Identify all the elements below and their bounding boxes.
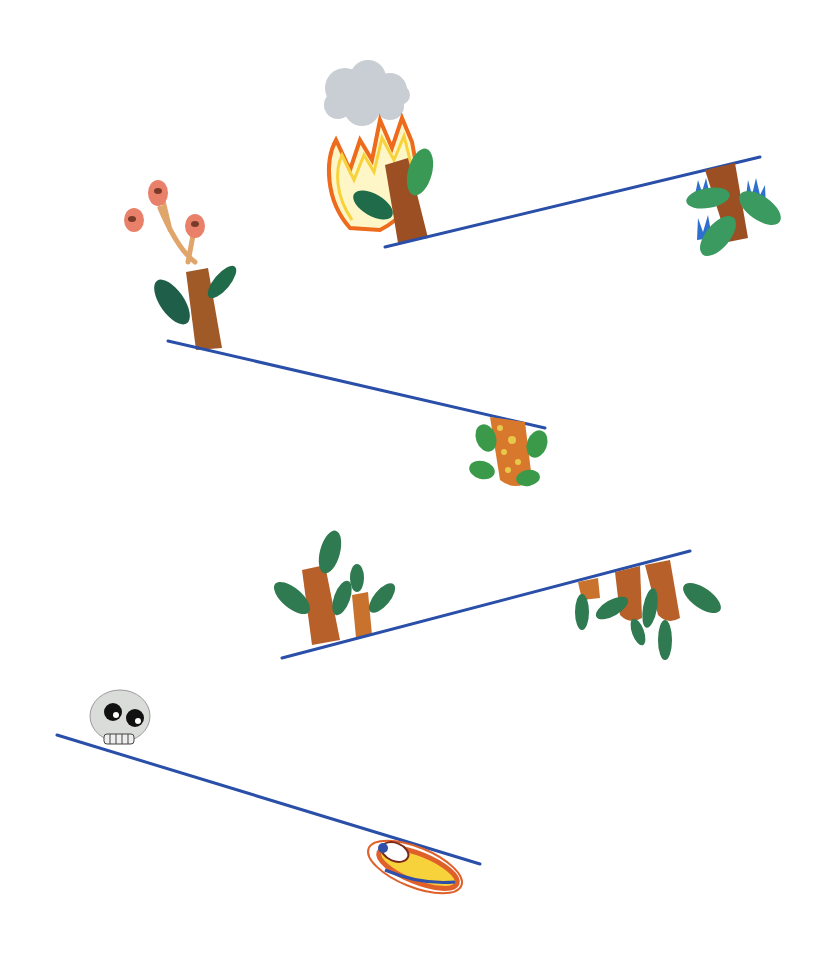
- small-trees: [269, 528, 400, 645]
- blue-flame-tree: [685, 163, 787, 262]
- ground-line-2: [168, 341, 545, 428]
- eye: [104, 703, 122, 721]
- smoke-cloud: [324, 60, 410, 126]
- leaf: [575, 594, 589, 630]
- illustration: [0, 0, 825, 959]
- skull: [90, 690, 150, 744]
- eye: [126, 709, 144, 727]
- ground-line-4: [57, 735, 480, 864]
- cocoon: [361, 830, 469, 905]
- leaf: [658, 620, 672, 660]
- leaf: [678, 577, 726, 619]
- bud-tree: [124, 180, 241, 350]
- leaf: [350, 564, 364, 592]
- pad: [467, 458, 497, 482]
